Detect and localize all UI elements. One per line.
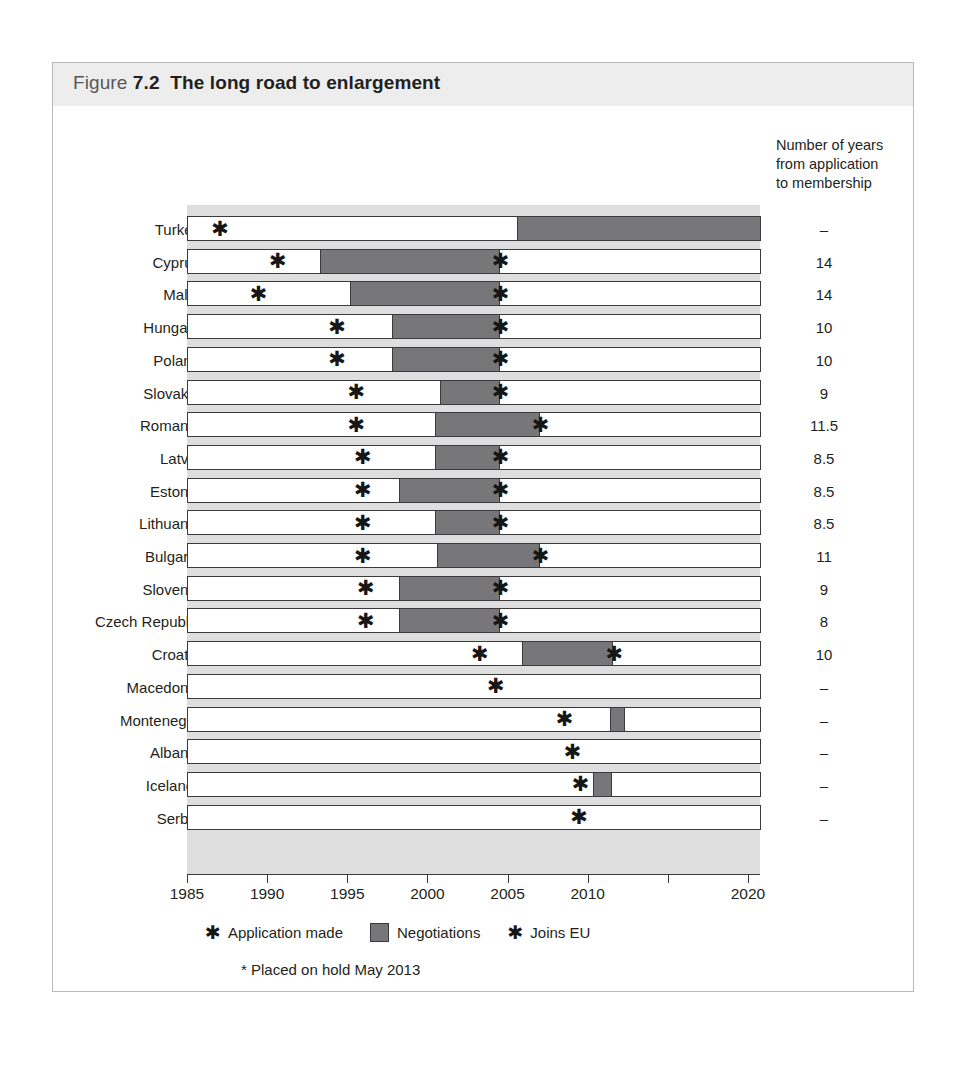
country-label: Romania (0, 418, 200, 433)
negotiations-segment (593, 773, 612, 796)
chart-row: ✱ (187, 769, 760, 802)
years-value: 10 (776, 647, 872, 662)
timeline-bar[interactable]: ✱ (187, 674, 761, 699)
years-value: – (776, 222, 872, 237)
chart-row: ✱✱ (187, 605, 760, 638)
timeline-bar[interactable]: ✱✱ (187, 347, 761, 372)
application-asterisk-icon: ✱ (564, 741, 582, 762)
application-asterisk-icon: ✱ (471, 643, 489, 664)
chart-row: ✱✱ (187, 344, 760, 377)
legend-item-joins-eu: ✱ Joins EU (507, 923, 590, 942)
years-value: 8.5 (776, 451, 872, 466)
years-value: 14 (776, 255, 872, 270)
x-axis-tick-label: 1990 (232, 885, 302, 903)
x-axis-tick-label: 1985 (152, 885, 222, 903)
country-label: Czech Republic (0, 614, 200, 629)
chart-row: ✱ (187, 802, 760, 835)
asterisk-icon: ✱ (507, 923, 523, 942)
negotiations-segment (435, 413, 539, 436)
timeline-bar[interactable]: ✱✱ (187, 478, 761, 503)
timeline-bar[interactable]: ✱ (187, 772, 761, 797)
application-asterisk-icon: ✱ (354, 512, 372, 533)
x-axis-tick-label: 1995 (312, 885, 382, 903)
negotiations-segment (399, 479, 500, 502)
figure-number: 7.2 (133, 72, 160, 93)
application-asterisk-icon: ✱ (354, 480, 372, 501)
negotiations-segment (435, 446, 499, 469)
years-header-line: to membership (776, 174, 916, 193)
x-axis-tick (748, 874, 749, 883)
timeline-bar[interactable]: ✱✱ (187, 543, 761, 568)
timeline-bar[interactable]: ✱✱ (187, 249, 761, 274)
timeline-bar[interactable]: ✱✱ (187, 576, 761, 601)
years-value: 11 (776, 549, 872, 564)
chart-row: ✱✱ (187, 507, 760, 540)
x-axis-tick-label: 2005 (473, 885, 543, 903)
timeline-bar[interactable]: ✱✱ (187, 445, 761, 470)
years-value: – (776, 713, 872, 728)
x-axis-tick-label: 2000 (392, 885, 462, 903)
figure-title-band: Figure 7.2 The long road to enlargement (53, 63, 913, 106)
negotiations-segment (320, 250, 500, 273)
country-label: Turkey (0, 222, 200, 237)
application-asterisk-icon: ✱ (357, 610, 375, 631)
page-title: Figure 7.2 The long road to enlargement (73, 72, 440, 94)
legend-label-application: Application made (228, 924, 343, 941)
x-axis-tick (187, 874, 188, 883)
chart-row: ✱✱ (187, 278, 760, 311)
chart-row: ✱✱ (187, 638, 760, 671)
timeline-bar[interactable]: ✱✱ (187, 314, 761, 339)
negotiations-segment (522, 642, 613, 665)
years-value: 14 (776, 287, 872, 302)
negotiations-segment (437, 544, 540, 567)
country-label: Latvia (0, 451, 200, 466)
timeline-bar[interactable]: ✱✱ (187, 510, 761, 535)
negotiations-segment (440, 381, 499, 404)
country-label: Estonia (0, 484, 200, 499)
chart-row: ✱ (187, 671, 760, 704)
application-asterisk-icon: ✱ (357, 578, 375, 599)
chart-row: ✱ (187, 736, 760, 769)
timeline-bar[interactable]: ✱✱ (187, 641, 761, 666)
years-value: 8.5 (776, 484, 872, 499)
country-label: Hungary (0, 320, 200, 335)
timeline-bar[interactable]: ✱✱ (187, 608, 761, 633)
country-label: Croatia (0, 647, 200, 662)
chart-row: ✱ (187, 213, 760, 246)
country-label: Poland (0, 353, 200, 368)
timeline-bar[interactable]: ✱✱ (187, 281, 761, 306)
legend-item-application: ✱ Application made (205, 923, 343, 942)
application-asterisk-icon: ✱ (211, 218, 229, 239)
legend-item-negotiations: Negotiations (370, 923, 480, 942)
country-label: Malta (0, 287, 200, 302)
x-axis-tick-label: 2020 (713, 885, 783, 903)
years-value: – (776, 745, 872, 760)
timeline-bar[interactable]: ✱ (187, 216, 761, 241)
chart-row: ✱✱ (187, 442, 760, 475)
chart-row: ✱ (187, 704, 760, 737)
timeline-bar[interactable]: ✱ (187, 739, 761, 764)
country-label: Cyprus (0, 255, 200, 270)
years-value: – (776, 811, 872, 826)
chart-row: ✱✱ (187, 475, 760, 508)
years-header-line: Number of years (776, 136, 916, 155)
timeline-bar[interactable]: ✱✱ (187, 380, 761, 405)
years-value: – (776, 778, 872, 793)
timeline-bar[interactable]: ✱ (187, 707, 761, 732)
application-asterisk-icon: ✱ (328, 316, 346, 337)
years-value: 9 (776, 386, 872, 401)
chart-legend: ✱ Application made Negotiations ✱ Joins … (205, 923, 590, 942)
negotiations-segment (610, 708, 624, 731)
country-label: Iceland* (0, 778, 200, 793)
x-axis-tick (427, 874, 428, 883)
x-axis-tick-label: 2010 (553, 885, 623, 903)
negotiations-segment (392, 315, 499, 338)
chart-row: ✱✱ (187, 246, 760, 279)
timeline-bar[interactable]: ✱ (187, 805, 761, 830)
figure-label: Figure (73, 72, 127, 93)
chart-row: ✱✱ (187, 540, 760, 573)
years-column-header: Number of yearsfrom applicationto member… (776, 136, 916, 193)
negotiations-segment (435, 511, 499, 534)
legend-label-negotiations: Negotiations (397, 924, 480, 941)
timeline-bar[interactable]: ✱✱ (187, 412, 761, 437)
